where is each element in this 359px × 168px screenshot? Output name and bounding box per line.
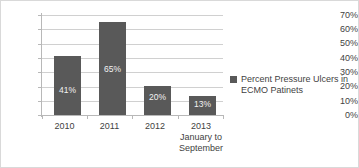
legend-entry-label: Percent Pressure Ulcers in ECMO Patinets <box>241 74 356 96</box>
gridline <box>42 44 223 45</box>
legend[interactable]: Percent Pressure Ulcers in ECMO Patinets <box>230 74 356 96</box>
x-axis-category-2013: 2013 January to September <box>176 121 226 154</box>
gridline <box>42 15 223 16</box>
x-axis-tick-mark <box>42 115 43 119</box>
bar-value-label-2011: 65% <box>99 65 126 74</box>
bar-value-label-2013: 13% <box>189 100 216 109</box>
y-axis-tick-label: 60% <box>324 25 358 34</box>
x-axis-line <box>42 115 224 116</box>
bar-value-label-2010: 41% <box>54 86 81 95</box>
x-axis-category-2012: 2012 <box>132 121 178 132</box>
legend-color-swatch <box>230 76 237 83</box>
x-axis-tick-mark <box>132 115 133 119</box>
x-axis-category-label: 2012 <box>145 121 165 131</box>
bar-chart: 70% 60% 50% 40% 30% 20% 10% 0% 41% 65% 2… <box>0 0 359 168</box>
x-axis-tick-mark <box>223 115 224 119</box>
bar-value-label-2012: 20% <box>144 93 171 102</box>
x-axis-category-sublabel-line2: September <box>176 143 226 154</box>
y-axis-tick-label: 40% <box>324 54 358 63</box>
x-axis-tick-mark <box>178 115 179 119</box>
y-axis-tick-label: 0% <box>324 111 358 120</box>
x-axis-category-label: 2010 <box>54 121 74 131</box>
x-axis-category-label: 2011 <box>100 121 119 131</box>
x-axis-category-label: 2013 <box>191 121 211 131</box>
x-axis-category-2010: 2010 <box>42 121 87 132</box>
plot-area: 41% 65% 20% 13% <box>42 15 223 115</box>
x-axis-tick-mark <box>87 115 88 119</box>
y-axis-tick-label: 50% <box>324 39 358 48</box>
y-axis-tick-label: 10% <box>324 97 358 106</box>
x-axis-category-2011: 2011 <box>87 121 132 132</box>
gridline <box>42 29 223 30</box>
x-axis-category-sublabel-line1: January to <box>176 132 226 143</box>
y-axis-tick-label: 70% <box>324 11 358 20</box>
